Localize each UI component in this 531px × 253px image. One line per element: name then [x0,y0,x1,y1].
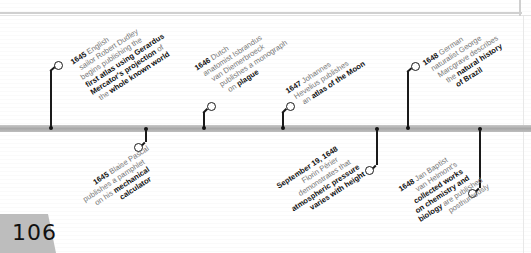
event-marker-ring-icon [365,166,374,175]
book-page: 1645 English sailor Robert Dudley begins… [0,0,531,253]
top-rule-divider-secondary [0,15,531,16]
event-label: 1646 Dutch anatomist Isbrandus van Dieme… [193,15,294,102]
right-margin-rule [519,0,521,16]
event-label: 1645 Blaise Pascal publishes a pamphlet … [73,144,165,221]
event-connector-stem [145,129,147,142]
event-label: 1645 English sailor Robert Dudley begins… [69,9,176,104]
page-number: 106 [12,220,57,245]
event-marker-ring-icon [411,62,420,71]
event-connector-stem [376,129,378,165]
timeline-dot-icon [406,126,410,130]
top-rule-divider [0,12,522,14]
event-label: 1648 Jan Baptist van Helmont's collected… [397,144,491,231]
event-label: 1647 Johannes Hevelius publishes an atla… [284,44,367,111]
timeline-bar [0,125,531,132]
timeline-dot-icon [281,126,285,130]
timeline-dot-icon [202,126,206,130]
event-label: September 19, 1648 Florin Périer demonst… [275,139,367,220]
event-marker-ring-icon [54,61,63,70]
page-edge [523,16,524,253]
timeline-dot-icon [49,126,53,130]
event-connector-stem [50,70,52,128]
event-label: 1648 German naturalist George Marcgrave … [421,18,510,97]
event-marker-ring-icon [207,102,216,111]
event-connector-stem [407,71,409,128]
